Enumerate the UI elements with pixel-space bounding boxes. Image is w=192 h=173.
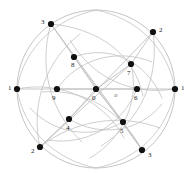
vertex-7-n7[interactable] <box>128 61 134 67</box>
vertex-0-n0[interactable] <box>93 86 99 92</box>
arc-a10 <box>70 40 175 90</box>
edge-n3d-n5 <box>123 122 142 150</box>
vertex-5-n5[interactable] <box>120 119 126 125</box>
vertex-4-n4[interactable] <box>66 116 72 122</box>
edge-n3u-n5 <box>51 24 123 122</box>
vertex-1-n1l[interactable] <box>14 86 20 92</box>
vertex-label-n7: 7 <box>127 70 131 77</box>
edge-n2u-n7 <box>131 32 153 64</box>
vertex-3-n3u[interactable] <box>48 21 54 27</box>
arc-a2 <box>96 10 175 89</box>
vertex-label-n2u: 2 <box>159 27 163 34</box>
vertex-label-n3u: 3 <box>41 19 45 26</box>
edge-n2d-n7 <box>40 64 131 147</box>
arc-a4 <box>17 89 96 168</box>
edge-n8-n0 <box>74 57 96 89</box>
vertex-label-n0: 0 <box>92 95 96 102</box>
arc-a1 <box>17 10 96 89</box>
vertex-6-n6[interactable] <box>134 86 140 92</box>
edge-n2d-n4 <box>40 119 69 147</box>
arc-a8 <box>40 120 160 147</box>
vertex-label-n4: 4 <box>66 125 70 132</box>
vertex-9-n9[interactable] <box>54 86 60 92</box>
vertex-2-n2d[interactable] <box>37 144 43 150</box>
arc-a5 <box>51 24 143 96</box>
vertex-1-n1r[interactable] <box>172 86 178 92</box>
vertex-label-n1l: 1 <box>8 85 12 92</box>
vertex-label-n3d: 3 <box>148 152 152 159</box>
vertex-2-n2u[interactable] <box>150 29 156 35</box>
vertex-label-n1r: 1 <box>181 85 185 92</box>
vertex-8-n8[interactable] <box>71 54 77 60</box>
diagram-canvas: 0123123678945⌀ <box>0 0 192 173</box>
vertex-label-n9: 9 <box>52 95 56 102</box>
marker-m-phi: ⌀ <box>114 92 118 99</box>
edge-n7-n0 <box>96 64 131 89</box>
vertex-label-n2d: 2 <box>31 148 35 155</box>
vertex-3-n3d[interactable] <box>139 147 145 153</box>
graph-svg <box>0 0 192 173</box>
vertex-label-n6: 6 <box>134 95 138 102</box>
vertex-label-n5: 5 <box>120 128 124 135</box>
vertex-label-n8: 8 <box>71 62 75 69</box>
